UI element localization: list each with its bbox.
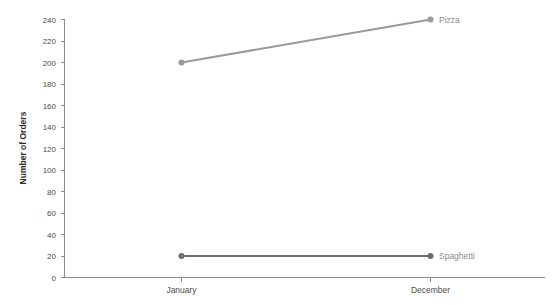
y-axis-title: Number of Orders	[18, 111, 28, 184]
y-tick-label: 180	[43, 80, 57, 89]
y-tick-label: 160	[43, 102, 57, 111]
y-tick-label: 20	[47, 252, 56, 261]
x-tick-label-december: December	[411, 285, 450, 295]
line-chart: 0 20 40 60 80 100 120 140 160 180 200 22…	[0, 0, 559, 305]
spaghetti-point-january	[179, 253, 185, 259]
chart-canvas: 0 20 40 60 80 100 120 140 160 180 200 22…	[0, 0, 559, 305]
y-tick-label: 220	[43, 37, 57, 46]
y-tick-label: 140	[43, 123, 57, 132]
y-tick-label: 60	[47, 209, 56, 218]
y-tick-label: 0	[52, 274, 57, 283]
y-tick-label: 200	[43, 59, 57, 68]
y-tick-label: 120	[43, 145, 57, 154]
y-tick-label: 80	[47, 188, 56, 197]
y-tick-label: 40	[47, 231, 56, 240]
spaghetti-series-label: Spaghetti	[439, 251, 475, 261]
pizza-point-december	[428, 17, 434, 23]
x-tick-label-january: January	[166, 285, 197, 295]
pizza-point-january	[179, 60, 185, 66]
y-tick-label: 240	[43, 16, 57, 25]
spaghetti-point-december	[428, 253, 434, 259]
pizza-series-label: Pizza	[439, 15, 460, 25]
y-tick-label: 100	[43, 166, 57, 175]
